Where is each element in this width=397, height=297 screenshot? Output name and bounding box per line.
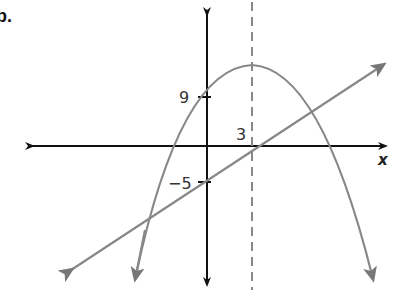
graph: b. 9 3 −5 x <box>0 0 397 297</box>
label-neg5: −5 <box>168 174 192 193</box>
part-label: b. <box>0 6 12 26</box>
label-3: 3 <box>236 125 246 144</box>
linear-function <box>68 67 380 272</box>
parabola-left-arrow <box>136 230 145 275</box>
label-9: 9 <box>179 88 189 107</box>
x-axis-label: x <box>377 151 389 169</box>
